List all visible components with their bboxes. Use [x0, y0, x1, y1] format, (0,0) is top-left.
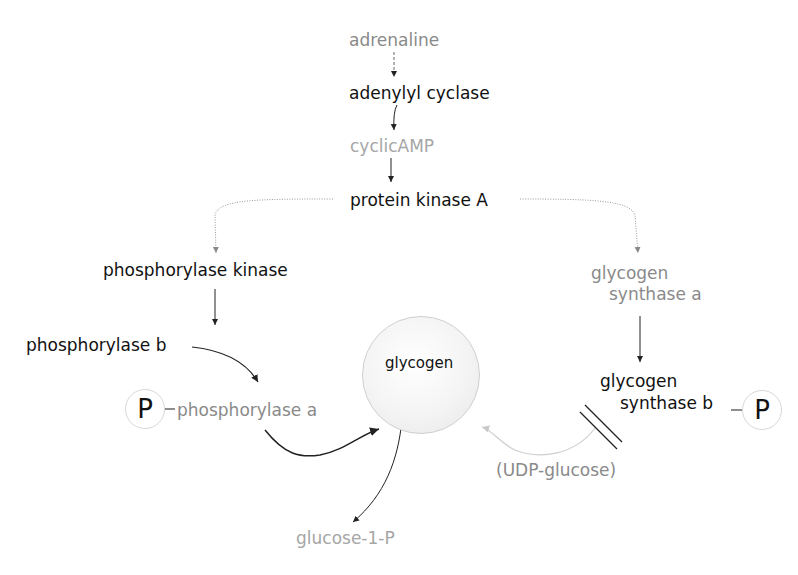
- arrow-udpglucose-to-glycogen: [482, 427, 595, 455]
- node-adrenaline: adrenaline: [349, 30, 439, 50]
- arrow-pha-to-glycogen: [265, 429, 379, 456]
- node-protein-kinase-a: protein kinase A: [350, 190, 488, 210]
- node-glycogen: glycogen: [385, 353, 453, 373]
- inhibition-bar-1: [585, 405, 622, 442]
- node-adenylyl-cyclase: adenylyl cyclase: [349, 83, 490, 103]
- arrow-phb-to-pha: [192, 347, 258, 382]
- arrow-pka-to-glycogen-synthase-a: [520, 199, 638, 253]
- arrow-cyclase-to-camp: [394, 105, 397, 130]
- node-glycogen-synthase-a-line2: synthase a: [609, 284, 702, 304]
- node-phosphorylase-b: phosphorylase b: [26, 335, 167, 355]
- node-glycogen-synthase-b-line1: glycogen: [600, 371, 677, 391]
- phosphate-right: P: [742, 390, 782, 430]
- node-glycogen-synthase-a-line1: glycogen: [591, 263, 668, 283]
- phosphate-left: P: [125, 389, 165, 429]
- glycogen-granule: [362, 316, 480, 434]
- arrow-glycogen-to-glucose1p: [353, 420, 402, 522]
- node-udp-glucose: (UDP-glucose): [496, 460, 616, 480]
- node-phosphorylase-kinase: phosphorylase kinase: [103, 260, 288, 280]
- arrow-pka-to-phosphorylase-kinase: [215, 199, 333, 253]
- node-cyclic-amp: cyclicAMP: [350, 136, 434, 156]
- node-glucose-1-p: glucose-1-P: [296, 528, 395, 548]
- node-glycogen-synthase-b-line2: synthase b: [620, 393, 713, 413]
- inhibition-bar-2: [580, 412, 617, 449]
- node-phosphorylase-a: phosphorylase a: [177, 400, 317, 420]
